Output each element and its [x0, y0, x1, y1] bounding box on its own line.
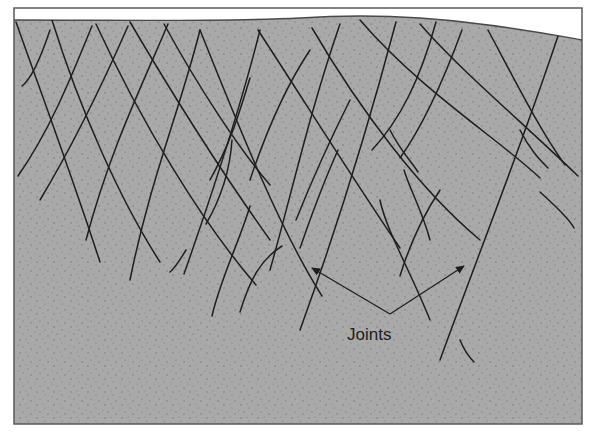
joints-label: Joints — [347, 325, 391, 345]
joints-diagram — [0, 0, 596, 440]
rock-mass — [14, 16, 582, 424]
